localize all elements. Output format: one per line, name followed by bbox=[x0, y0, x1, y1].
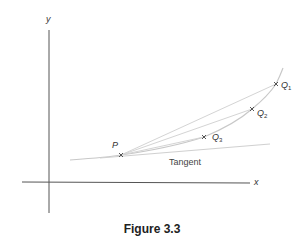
secant-line-q3 bbox=[121, 137, 204, 155]
marker-q1 bbox=[274, 82, 278, 86]
tangent-label: Tangent bbox=[169, 157, 201, 167]
figure-caption: Figure 3.3 bbox=[0, 222, 304, 236]
curve bbox=[70, 68, 283, 160]
point-label-q3: Q3 bbox=[212, 132, 222, 143]
point-label-q2: Q2 bbox=[257, 108, 267, 119]
y-axis-label: y bbox=[46, 14, 51, 24]
point-label-q1: Q1 bbox=[281, 80, 291, 91]
point-label-p: P bbox=[112, 140, 118, 150]
x-axis bbox=[22, 182, 250, 183]
secant-line-q2 bbox=[121, 109, 252, 155]
x-axis-label: x bbox=[254, 177, 259, 187]
tangent-line bbox=[100, 144, 270, 158]
secant-line-q1 bbox=[121, 84, 276, 155]
diagram-canvas bbox=[0, 0, 304, 247]
